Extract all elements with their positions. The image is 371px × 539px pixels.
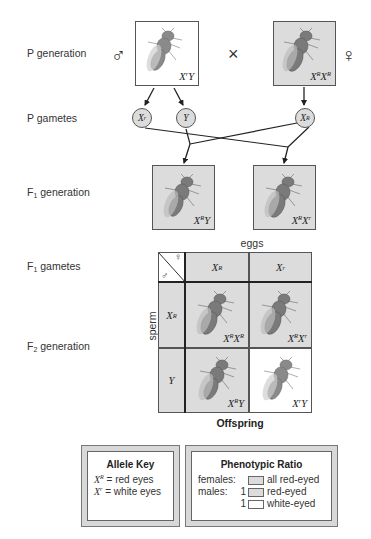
genotype-label: XRXr (292, 214, 311, 226)
allele-key-title: Allele Key (88, 459, 173, 470)
offspring-label: Offspring (200, 417, 280, 429)
female-symbol-icon: ♀ (341, 45, 356, 65)
gamete-xR-female: XR (295, 108, 315, 128)
allele-key-entry: Xr = white eyes (94, 486, 161, 497)
gamete-xr-male: Xr (132, 108, 152, 128)
f1-female-fly-card: XRXr (253, 165, 316, 230)
white-eyed-swatch (248, 500, 264, 509)
punnett-cell-XRXr: XRXr (249, 282, 312, 348)
fly-icon (280, 26, 324, 76)
genotype-label: XRY (194, 214, 210, 226)
punnett-cell-XRY: XRY (185, 348, 249, 413)
ratio-row-females: females:all red-eyed (198, 474, 333, 485)
phenotypic-ratio-title: Phenotypic Ratio (192, 459, 331, 470)
punnett-row-header: Y (158, 348, 185, 413)
gamete-y-male: Y (176, 108, 196, 128)
ratio-row-males-white: 1white-eyed (198, 498, 333, 509)
punnett-corner: ♀ ♂ (158, 252, 185, 282)
punnett-col-header: Xr (249, 252, 312, 282)
f1-male-fly-card: XRY (152, 165, 215, 230)
p-male-fly-card: XrY (135, 21, 199, 86)
punnett-cell-XRXR: XRXR (185, 282, 249, 348)
cross-symbol-icon: × (228, 45, 239, 63)
fly-icon (144, 26, 188, 76)
p-female-fly-card: XRXR (273, 21, 336, 86)
eggs-label: eggs (232, 237, 272, 249)
punnett-divider (184, 252, 186, 413)
phenotypic-ratio-panel: Phenotypic Ratio females:all red-eyed ma… (185, 445, 338, 527)
male-symbol-icon: ♂ (111, 45, 126, 65)
punnett-col-header: XR (185, 252, 249, 282)
sperm-label: sperm (146, 306, 158, 346)
punnett-square: ♀ ♂ XR Xr XR Y XRXR XRXr (158, 252, 312, 413)
genotype-label: XrY (179, 70, 194, 82)
punnett-cell-XrY: XrY (249, 348, 312, 413)
punnett-divider (158, 281, 312, 283)
allele-key-entry: XR = red eyes (94, 474, 154, 485)
red-eyed-swatch (248, 488, 264, 497)
allele-key-panel: Allele Key XR = red eyes Xr = white eyes (81, 445, 180, 527)
red-eyed-swatch (248, 476, 264, 485)
genotype-label: XRXR (310, 70, 331, 82)
punnett-row-header: XR (158, 282, 185, 348)
male-symbol-icon: ♂ (161, 270, 169, 281)
female-symbol-icon: ♀ (175, 251, 183, 262)
ratio-row-males-red: males:1red-eyed (198, 486, 333, 497)
